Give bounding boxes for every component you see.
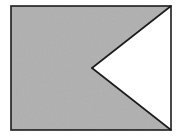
swallowtail-figure — [0, 0, 183, 139]
figure-canvas — [0, 0, 183, 139]
